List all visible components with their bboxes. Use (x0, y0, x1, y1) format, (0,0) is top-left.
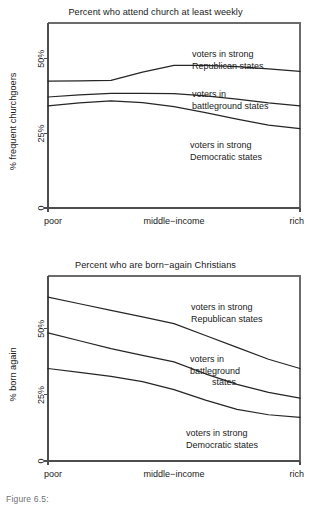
y-axis-tick-label: 25% (36, 386, 46, 404)
x-axis-tick-label: middle−income (144, 216, 205, 226)
y-axis-tick-label: 0 (36, 458, 46, 463)
chart-panel-church-attendance: Percent who attend church at least weekl… (0, 0, 311, 253)
y-axis-tick-label: 25% (36, 124, 46, 142)
series-annotation: voters inbattlegroundstates (190, 354, 240, 387)
y-axis-tick-label: 50% (36, 50, 46, 68)
y-axis-title: % born again (8, 347, 18, 401)
series-annotation-line: Republican states (191, 314, 263, 324)
series-annotation: voters in strongDemocratic states (186, 428, 259, 450)
series-line (48, 333, 300, 398)
y-axis-title: % frequent churchgoers (8, 72, 18, 170)
series-annotation: voters in strongDemocratic states (190, 140, 263, 162)
plot-area-church-attendance: 025%50%poormiddle−incomerich% frequent c… (0, 0, 311, 253)
series-annotation-line: voters in strong (190, 140, 252, 150)
x-axis-tick-label: rich (289, 469, 304, 479)
series-annotation-line: voters in strong (191, 302, 253, 312)
figure-caption: Figure 6.5: (6, 494, 49, 504)
series-annotation: voters inbattleground states (192, 89, 269, 111)
series-line (48, 369, 300, 418)
series-annotation: voters in strongRepublican states (192, 49, 264, 71)
series-annotation-line: battleground (190, 366, 240, 376)
series-annotation-line: voters in (190, 354, 224, 364)
y-axis-tick-label: 50% (36, 320, 46, 338)
x-axis-tick-label: poor (44, 216, 62, 226)
series-annotation: voters in strongRepublican states (191, 302, 263, 324)
x-axis-tick-label: poor (44, 469, 62, 479)
series-annotation-line: Republican states (192, 61, 264, 71)
series-annotation-line: states (212, 377, 237, 387)
plot-area-born-again: 025%50%poormiddle−incomerich% born again… (0, 253, 311, 506)
series-annotation-line: Democratic states (186, 440, 259, 450)
y-axis-tick-label: 0 (36, 205, 46, 210)
series-annotation-line: voters in strong (186, 428, 248, 438)
series-annotation-line: voters in strong (192, 49, 254, 59)
series-line (48, 297, 300, 368)
x-axis-tick-label: rich (289, 216, 304, 226)
series-annotation-line: battleground states (192, 101, 269, 111)
series-annotation-line: Democratic states (190, 152, 263, 162)
chart-panel-born-again: Percent who are born−again Christians 02… (0, 253, 311, 506)
x-axis-tick-label: middle−income (144, 469, 205, 479)
series-annotation-line: voters in (192, 89, 226, 99)
